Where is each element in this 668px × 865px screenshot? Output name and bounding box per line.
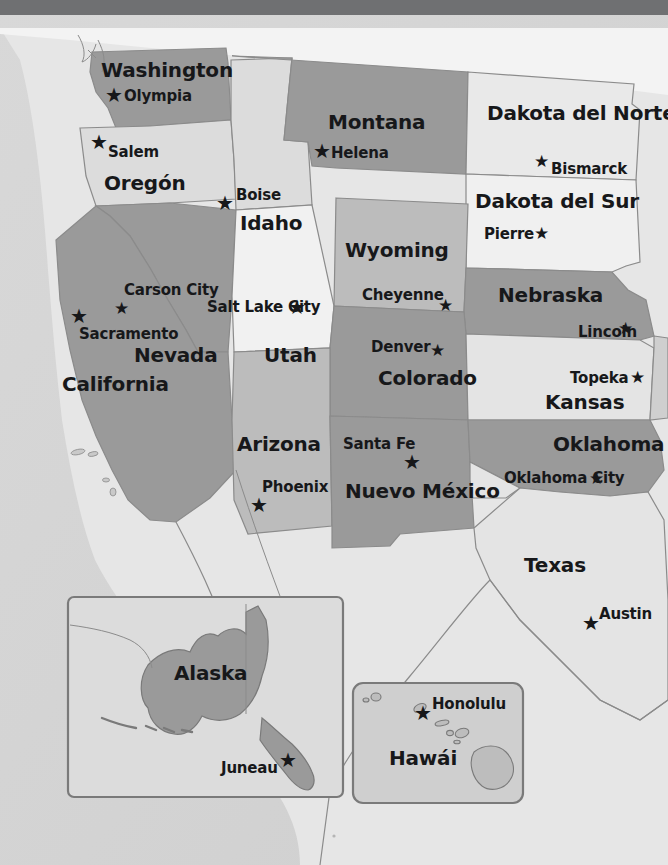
state-arizona bbox=[232, 348, 332, 534]
state-new-mexico bbox=[330, 416, 474, 548]
hawaii-inset-group bbox=[353, 683, 523, 803]
state-kansas bbox=[466, 334, 654, 420]
top-bar bbox=[0, 0, 668, 15]
state-colorado bbox=[330, 306, 468, 420]
state-wyoming bbox=[334, 198, 468, 312]
state-washington bbox=[90, 48, 231, 128]
map-scale-dot bbox=[332, 834, 335, 837]
island-lanai bbox=[447, 730, 454, 735]
island-kauai bbox=[371, 693, 381, 701]
island-niihau bbox=[363, 698, 369, 702]
map-container: Washington Oregón Idaho Montana Dakota d… bbox=[0, 0, 668, 865]
state-south-dakota bbox=[466, 174, 640, 272]
map-graphic bbox=[0, 0, 668, 865]
island-kahoolawe bbox=[454, 740, 460, 744]
state-oregon bbox=[80, 120, 236, 206]
state-north-dakota bbox=[466, 72, 640, 180]
alaska-inset-group bbox=[68, 597, 343, 797]
